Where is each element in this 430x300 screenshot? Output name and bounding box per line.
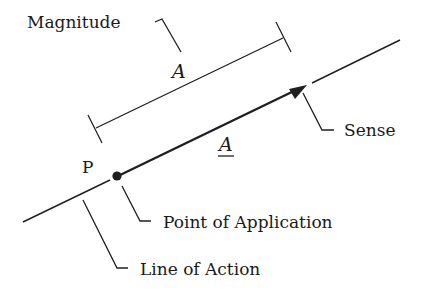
- line-of-action-leader: [83, 200, 128, 268]
- line-of-action-lower: [23, 180, 110, 222]
- magnitude-dimension-line: [96, 38, 283, 128]
- magnitude-tick-left: [88, 115, 102, 143]
- vector-arrow-shaft: [118, 90, 296, 176]
- vector-diagram: Magnitude A A P Sense Point of Applicati…: [0, 0, 430, 300]
- magnitude-leader: [155, 19, 181, 52]
- sense-label: Sense: [344, 120, 395, 140]
- sense-leader: [303, 93, 334, 130]
- magnitude-symbol: A: [170, 60, 186, 82]
- line-of-action-label: Line of Action: [140, 259, 260, 279]
- point-of-application-label: Point of Application: [163, 212, 333, 232]
- line-of-action-upper: [312, 40, 400, 83]
- point-of-application-leader: [122, 186, 151, 221]
- point-p-label: P: [82, 157, 93, 177]
- magnitude-tick-right: [276, 22, 291, 52]
- point-p-dot: [112, 171, 121, 180]
- vector-symbol: A: [217, 133, 233, 155]
- magnitude-label: Magnitude: [27, 12, 121, 32]
